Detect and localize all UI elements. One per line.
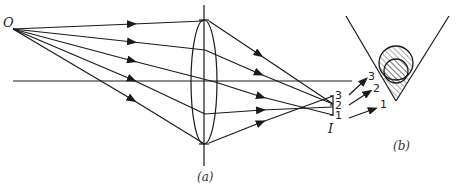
incident-rays: [13, 21, 215, 143]
optics-diagram: O I 3 2 1 (a) 3 2 1 (b): [0, 0, 456, 188]
caption-b: (b): [393, 139, 410, 153]
ray-label-1: 1: [380, 98, 387, 111]
circle-of-confusion-small: [384, 59, 408, 83]
panel-a: O I 3 2 1 (a): [3, 5, 352, 184]
refracted-rays: [205, 21, 333, 143]
ray-arrow-1: [349, 109, 374, 118]
ray-label-2: 2: [373, 82, 380, 95]
panel-b: 3 2 1 (b): [346, 16, 449, 153]
image-point-1: 1: [335, 109, 342, 122]
image-label: I: [327, 121, 334, 136]
ray-arrow-3: [349, 80, 365, 95]
caption-a: (a): [197, 170, 214, 184]
ray-arrow-2: [349, 92, 369, 105]
object-label: O: [3, 15, 14, 30]
